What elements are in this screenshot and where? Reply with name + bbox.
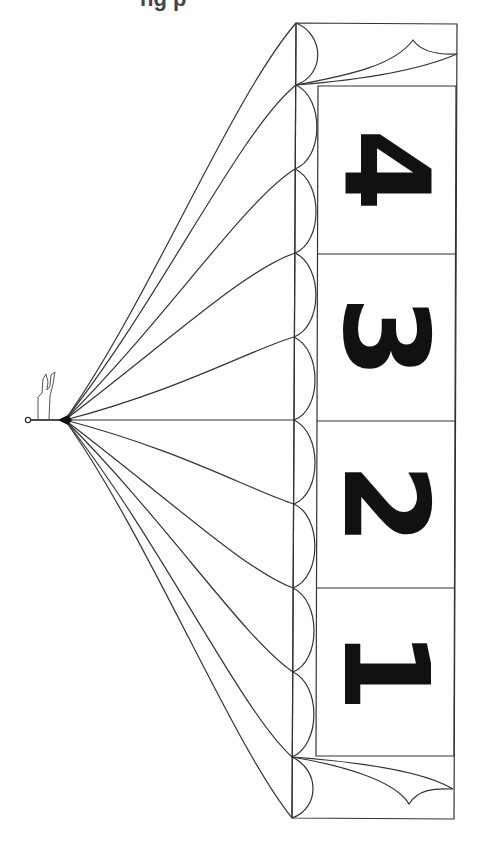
canopy-lines	[65, 23, 296, 818]
panel-number-3: 3	[321, 272, 451, 402]
figure-icon	[38, 372, 55, 419]
ring-icon	[25, 417, 30, 422]
panel-number-2: 2	[321, 439, 451, 569]
panel-number-1: 1	[321, 606, 451, 736]
panel-number-4: 4	[321, 105, 451, 235]
bottom-curtain	[292, 757, 453, 804]
